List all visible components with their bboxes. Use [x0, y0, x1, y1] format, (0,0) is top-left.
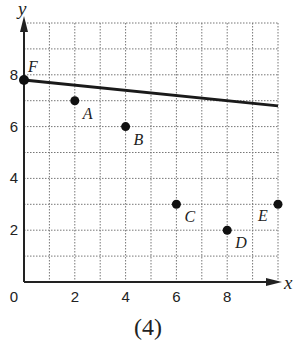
x-tick-label: 4	[121, 288, 129, 305]
x-axis-label: x	[283, 272, 293, 293]
point-label-c: C	[184, 208, 195, 225]
data-point-a	[70, 96, 79, 105]
x-tick-label: 0	[10, 288, 18, 305]
point-label-a: A	[82, 105, 93, 122]
y-tick-label: 8	[10, 66, 18, 83]
data-point-b	[121, 122, 130, 131]
tick-labels: 024682468	[10, 66, 232, 305]
y-tick-label: 2	[10, 221, 18, 238]
data-point-d	[223, 226, 232, 235]
point-label-b: B	[134, 131, 144, 148]
point-label-e: E	[257, 207, 268, 224]
data-point-c	[172, 200, 181, 209]
x-tick-label: 8	[223, 288, 231, 305]
scatter-plot: 024682468 ABCDEF x y	[0, 0, 296, 353]
data-point-e	[274, 200, 283, 209]
y-tick-label: 4	[10, 169, 18, 186]
data-point-f	[19, 75, 29, 85]
y-tick-label: 6	[10, 118, 18, 135]
x-tick-label: 2	[71, 288, 79, 305]
y-axis-label: y	[16, 0, 27, 19]
x-tick-label: 6	[172, 288, 180, 305]
point-label-d: D	[234, 234, 247, 251]
figure-caption: (4)	[0, 314, 296, 341]
point-label-f: F	[27, 58, 38, 75]
